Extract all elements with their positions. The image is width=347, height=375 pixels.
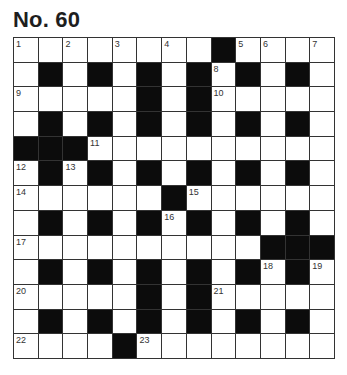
grid-cell[interactable]: 13 — [63, 161, 87, 185]
grid-cell[interactable] — [286, 38, 310, 62]
grid-cell[interactable] — [63, 186, 87, 210]
grid-cell[interactable] — [39, 38, 63, 62]
grid-cell[interactable] — [162, 87, 186, 111]
grid-cell[interactable] — [63, 63, 87, 87]
grid-cell[interactable] — [63, 112, 87, 136]
grid-cell[interactable] — [39, 87, 63, 111]
grid-cell[interactable] — [63, 310, 87, 334]
grid-cell[interactable] — [286, 87, 310, 111]
grid-cell[interactable] — [261, 87, 285, 111]
grid-cell[interactable] — [113, 137, 137, 161]
grid-cell[interactable] — [63, 87, 87, 111]
grid-cell[interactable] — [310, 310, 334, 334]
grid-cell[interactable] — [310, 285, 334, 309]
grid-cell[interactable]: 3 — [113, 38, 137, 62]
grid-cell[interactable] — [63, 236, 87, 260]
grid-cell[interactable] — [212, 334, 236, 358]
grid-cell[interactable]: 1 — [14, 38, 38, 62]
grid-cell[interactable]: 16 — [162, 211, 186, 235]
grid-cell[interactable]: 11 — [88, 137, 112, 161]
grid-cell[interactable] — [162, 310, 186, 334]
grid-cell[interactable] — [88, 38, 112, 62]
grid-cell[interactable] — [310, 186, 334, 210]
grid-cell[interactable]: 8 — [212, 63, 236, 87]
grid-cell[interactable] — [113, 236, 137, 260]
grid-cell[interactable] — [63, 285, 87, 309]
grid-cell[interactable] — [113, 260, 137, 284]
grid-cell[interactable] — [261, 310, 285, 334]
grid-cell[interactable] — [113, 87, 137, 111]
grid-cell[interactable] — [310, 161, 334, 185]
grid-cell[interactable] — [187, 38, 211, 62]
grid-cell[interactable] — [88, 285, 112, 309]
grid-cell[interactable] — [137, 236, 161, 260]
grid-cell[interactable] — [212, 211, 236, 235]
grid-cell[interactable] — [261, 161, 285, 185]
grid-cell[interactable] — [63, 260, 87, 284]
grid-cell[interactable] — [113, 186, 137, 210]
grid-cell[interactable]: 10 — [212, 87, 236, 111]
grid-cell[interactable] — [286, 334, 310, 358]
grid-cell[interactable] — [137, 38, 161, 62]
grid-cell[interactable] — [261, 63, 285, 87]
grid-cell[interactable] — [162, 236, 186, 260]
grid-cell[interactable] — [63, 211, 87, 235]
grid-cell[interactable]: 7 — [310, 38, 334, 62]
grid-cell[interactable] — [39, 285, 63, 309]
grid-cell[interactable]: 6 — [261, 38, 285, 62]
grid-cell[interactable] — [187, 137, 211, 161]
grid-cell[interactable] — [212, 161, 236, 185]
grid-cell[interactable] — [212, 186, 236, 210]
grid-cell[interactable] — [14, 260, 38, 284]
grid-cell[interactable] — [236, 334, 260, 358]
grid-cell[interactable]: 2 — [63, 38, 87, 62]
grid-cell[interactable] — [113, 161, 137, 185]
grid-cell[interactable] — [162, 260, 186, 284]
grid-cell[interactable] — [286, 186, 310, 210]
grid-cell[interactable]: 23 — [137, 334, 161, 358]
grid-cell[interactable] — [261, 137, 285, 161]
grid-cell[interactable] — [63, 334, 87, 358]
grid-cell[interactable] — [113, 310, 137, 334]
grid-cell[interactable] — [88, 236, 112, 260]
grid-cell[interactable]: 12 — [14, 161, 38, 185]
grid-cell[interactable] — [162, 285, 186, 309]
grid-cell[interactable] — [310, 211, 334, 235]
grid-cell[interactable] — [261, 285, 285, 309]
grid-cell[interactable] — [137, 137, 161, 161]
grid-cell[interactable] — [88, 334, 112, 358]
grid-cell[interactable]: 17 — [14, 236, 38, 260]
grid-cell[interactable] — [14, 63, 38, 87]
grid-cell[interactable]: 15 — [187, 186, 211, 210]
grid-cell[interactable]: 21 — [212, 285, 236, 309]
grid-cell[interactable]: 14 — [14, 186, 38, 210]
grid-cell[interactable] — [14, 310, 38, 334]
grid-cell[interactable]: 22 — [14, 334, 38, 358]
grid-cell[interactable]: 20 — [14, 285, 38, 309]
grid-cell[interactable] — [310, 87, 334, 111]
grid-cell[interactable] — [261, 211, 285, 235]
grid-cell[interactable] — [113, 285, 137, 309]
grid-cell[interactable] — [212, 112, 236, 136]
grid-cell[interactable] — [187, 236, 211, 260]
grid-cell[interactable]: 19 — [310, 260, 334, 284]
grid-cell[interactable] — [261, 334, 285, 358]
grid-cell[interactable] — [88, 87, 112, 111]
grid-cell[interactable] — [162, 63, 186, 87]
grid-cell[interactable] — [88, 186, 112, 210]
grid-cell[interactable] — [162, 334, 186, 358]
grid-cell[interactable] — [212, 260, 236, 284]
grid-cell[interactable] — [310, 137, 334, 161]
grid-cell[interactable]: 18 — [261, 260, 285, 284]
grid-cell[interactable] — [236, 186, 260, 210]
grid-cell[interactable] — [39, 334, 63, 358]
grid-cell[interactable] — [113, 63, 137, 87]
grid-cell[interactable] — [212, 236, 236, 260]
grid-cell[interactable] — [310, 112, 334, 136]
grid-cell[interactable] — [14, 112, 38, 136]
grid-cell[interactable] — [236, 285, 260, 309]
grid-cell[interactable] — [236, 236, 260, 260]
grid-cell[interactable]: 4 — [162, 38, 186, 62]
grid-cell[interactable] — [39, 186, 63, 210]
grid-cell[interactable] — [113, 112, 137, 136]
